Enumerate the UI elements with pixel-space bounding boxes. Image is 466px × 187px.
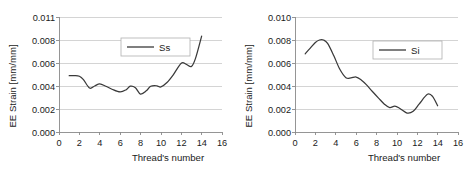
x-tick-label-right-0: 0 bbox=[292, 138, 297, 148]
y-tick-label-left-1: 0.002 bbox=[32, 105, 55, 115]
x-tick-label-left-8: 16 bbox=[217, 138, 227, 148]
x-tick-label-right-2: 4 bbox=[333, 138, 338, 148]
x-tick-label-right-7: 14 bbox=[433, 138, 443, 148]
x-tick-label-right-5: 10 bbox=[392, 138, 402, 148]
y-tick-label-right-2: 0.004 bbox=[268, 82, 291, 92]
chart-panel-si: EE Strain [mm/mm] 0.010 0.008 0.006 0.00… bbox=[233, 0, 466, 187]
x-tick-label-right-1: 2 bbox=[313, 138, 318, 148]
chart-panel-ss: EE Strain [mm/mm] 0.011 0.008 0.006 0.00… bbox=[0, 0, 233, 187]
x-tick-label-left-5: 10 bbox=[156, 138, 166, 148]
figure-two-panel-line-charts: EE Strain [mm/mm] 0.011 0.008 0.006 0.00… bbox=[0, 0, 466, 187]
chart-si-svg: EE Strain [mm/mm] 0.010 0.008 0.006 0.00… bbox=[233, 0, 466, 187]
chart-ss-svg: EE Strain [mm/mm] 0.011 0.008 0.006 0.00… bbox=[0, 0, 233, 187]
x-tick-label-right-4: 8 bbox=[374, 138, 379, 148]
y-tick-label-left-4: 0.008 bbox=[32, 36, 55, 46]
x-tick-label-right-8: 16 bbox=[453, 138, 463, 148]
y-tick-label-left-5: 0.011 bbox=[33, 13, 55, 23]
x-tick-label-left-3: 6 bbox=[118, 138, 123, 148]
x-tick-label-left-6: 12 bbox=[176, 138, 186, 148]
y-tick-label-right-3: 0.006 bbox=[268, 59, 291, 69]
legend-ss: Ss bbox=[121, 38, 190, 56]
legend-si: Si bbox=[373, 41, 442, 59]
y-tick-label-left-3: 0.006 bbox=[32, 59, 55, 69]
x-tick-label-right-3: 6 bbox=[354, 138, 359, 148]
y-axis-title-left: EE Strain [mm/mm] bbox=[7, 44, 18, 127]
x-axis-title-left: Thread's number bbox=[132, 152, 205, 163]
x-tick-label-left-0: 0 bbox=[56, 138, 61, 148]
x-tick-label-left-1: 2 bbox=[77, 138, 82, 148]
y-tick-label-left-0: 0.000 bbox=[32, 128, 55, 138]
y-tick-label-left-2: 0.004 bbox=[32, 82, 55, 92]
x-tick-label-left-2: 4 bbox=[97, 138, 102, 148]
y-tick-label-right-0: 0.000 bbox=[268, 128, 291, 138]
y-tick-label-right-4: 0.008 bbox=[268, 36, 291, 46]
legend-label-ss: Ss bbox=[159, 42, 170, 53]
x-axis-title-right: Thread's number bbox=[368, 152, 441, 163]
x-tick-label-left-4: 8 bbox=[138, 138, 143, 148]
y-axis-title-right: EE Strain [mm/mm] bbox=[243, 44, 254, 127]
x-tick-label-right-6: 12 bbox=[412, 138, 422, 148]
legend-label-si: Si bbox=[411, 45, 420, 56]
y-tick-label-right-1: 0.002 bbox=[268, 105, 291, 115]
y-tick-label-right-5: 0.010 bbox=[268, 13, 291, 23]
x-tick-label-left-7: 14 bbox=[197, 138, 207, 148]
